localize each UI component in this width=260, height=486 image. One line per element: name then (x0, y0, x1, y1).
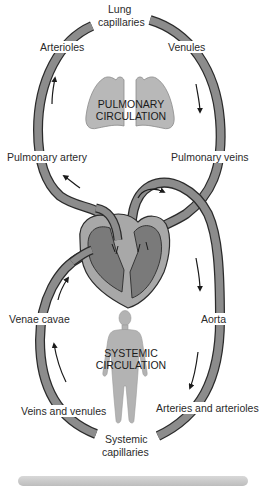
label-venules: Venules (167, 41, 206, 53)
label-venae-cavae: Venae cavae (8, 313, 71, 325)
label-pulmonary-veins: Pulmonary veins (170, 151, 250, 163)
region-systemic-line1: SYSTEMIC (92, 347, 170, 359)
label-systemic-capillaries-1: Systemic (104, 433, 149, 445)
label-systemic-capillaries-2: capillaries (101, 446, 150, 458)
label-arteries-and-arterioles: Arteries and arterioles (155, 402, 260, 414)
label-lung-capillaries-2: capillaries (97, 16, 146, 28)
bottom-divider-bar (18, 476, 248, 486)
region-systemic-line2: CIRCULATION (90, 359, 172, 371)
label-pulmonary-artery: Pulmonary artery (6, 151, 88, 163)
region-pulmonary-line1: PULMONARY (92, 98, 170, 110)
region-pulmonary-line2: CIRCULATION (90, 110, 172, 122)
label-arterioles: Arterioles (39, 41, 85, 53)
label-lung-capillaries-1: Lung (107, 3, 132, 15)
heart-icon (72, 208, 170, 308)
label-aorta: Aorta (200, 313, 227, 325)
label-veins-and-venules: Veins and venules (20, 405, 107, 417)
